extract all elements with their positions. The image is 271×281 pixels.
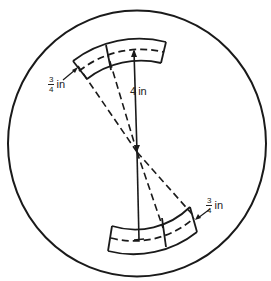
dashed-line-lower-right — [137, 152, 192, 214]
upper-inner-arc — [87, 61, 161, 79]
lower-arc-segment — [108, 207, 197, 254]
dashed-line-upper-mid — [108, 55, 137, 152]
upper-mid-dashed-arc — [79, 49, 164, 71]
dashed-line-upper-left — [78, 66, 137, 152]
dashed-line-lower-mid — [137, 152, 163, 228]
upper-arc-segment — [73, 39, 166, 79]
diagram-drawing — [0, 0, 271, 281]
fraction: 3 4 — [48, 75, 54, 94]
diagram-canvas: 3 4 in 4in 3 4 in — [0, 0, 271, 281]
lower-outer-arc — [108, 232, 197, 254]
radius-unit: in — [138, 85, 147, 97]
tick-lower — [134, 239, 144, 240]
radius-line-upper — [134, 51, 137, 152]
lower-width-label: 3 4 in — [206, 196, 223, 215]
lower-width-arrow-icon — [195, 214, 201, 220]
radius-label: 4in — [130, 86, 147, 97]
lower-divider — [162, 218, 166, 247]
radius-line-lower — [137, 152, 139, 240]
upper-width-label: 3 4 in — [48, 75, 65, 94]
fraction: 3 4 — [206, 196, 212, 215]
lower-inner-arc — [112, 207, 190, 230]
